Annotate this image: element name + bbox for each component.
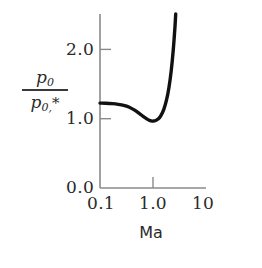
x-tick-label-2: 10 (192, 193, 214, 213)
y-axis-numerator-subscript: 0 (47, 76, 54, 89)
y-axis-title: p0 p0,* (14, 68, 76, 112)
data-curve (100, 14, 176, 121)
y-axis-denominator-subscript: 0, (41, 101, 52, 114)
y-axis-numerator-symbol: p (36, 67, 47, 87)
chart-figure: 2.0 1.0 0.0 0.1 1.0 10 Ma p0 p0,* (0, 0, 262, 268)
y-axis-denominator-star: * (52, 94, 60, 112)
y-tick-label-2: 2.0 (66, 39, 94, 59)
x-tick-label-0: 0.1 (87, 193, 115, 213)
chart-plot-area: 2.0 1.0 0.0 0.1 1.0 10 Ma (0, 0, 262, 268)
y-axis-denominator: p0,* (14, 93, 76, 112)
x-tick-label-1: 1.0 (139, 193, 167, 213)
y-axis-numerator: p0 (14, 68, 76, 87)
fraction-bar-icon (22, 89, 68, 91)
x-axis-title: Ma (139, 223, 163, 242)
y-axis-denominator-symbol: p (31, 92, 42, 112)
